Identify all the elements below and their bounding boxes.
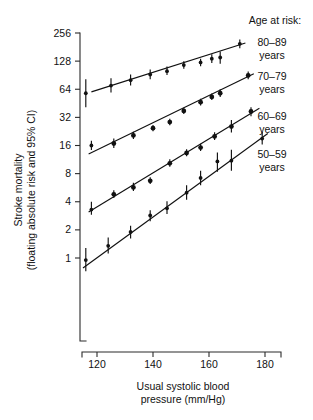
y-axis-tick-label: 64 <box>59 83 71 95</box>
legend-title: Age at risk: <box>249 14 302 26</box>
chart-canvas: 1248163264128256 120140160180 Usual syst… <box>0 0 313 420</box>
data-point <box>229 124 234 129</box>
x-axis-line <box>82 352 281 357</box>
data-point <box>90 208 94 212</box>
legend-item-70-79-unit: years <box>259 83 285 95</box>
legend-item-80-89-unit: years <box>259 49 285 61</box>
y-axis-tick-label: 8 <box>65 167 71 179</box>
y-axis-tick-label: 256 <box>53 27 71 39</box>
y-axis-line <box>80 33 86 341</box>
y-axis-tick-label: 16 <box>59 139 71 151</box>
data-point <box>84 91 88 95</box>
data-point <box>148 178 153 183</box>
data-point <box>230 159 234 163</box>
x-axis-tick-label: 140 <box>144 358 162 370</box>
data-point <box>90 144 94 148</box>
data-point <box>129 78 133 82</box>
data-point <box>199 176 203 180</box>
y-axis: 1248163264128256 <box>53 27 86 341</box>
y-axis-tick-label: 2 <box>65 223 71 235</box>
legend-item-80-89-range: 80–89 <box>257 36 286 48</box>
data-point <box>185 191 189 195</box>
x-axis: 120140160180 <box>82 352 281 370</box>
y-axis-tick-label: 4 <box>65 195 71 207</box>
legend-item-50-59-unit: years <box>259 161 285 173</box>
data-point <box>111 141 116 146</box>
y-axis-tick-label: 128 <box>53 55 71 67</box>
data-point <box>212 134 217 139</box>
series-fit-line <box>83 134 268 269</box>
series-60-69-years <box>89 107 260 214</box>
legend-item-60-69-unit: years <box>259 123 285 135</box>
y-axis-tick-label: 1 <box>65 252 71 264</box>
data-point <box>106 244 110 248</box>
data-point <box>111 192 116 197</box>
x-axis-title-line1: Usual systolic blood <box>137 380 230 392</box>
series-50-59-years <box>83 132 268 272</box>
data-point <box>148 73 152 77</box>
data-point <box>182 63 186 67</box>
data-series-layer <box>83 40 268 272</box>
data-point <box>84 258 88 262</box>
x-axis-tick-label: 180 <box>256 358 274 370</box>
y-axis-title-line2: (floating absolute risk and 95% CI) <box>25 110 37 271</box>
data-point <box>210 57 214 61</box>
data-point <box>151 126 156 131</box>
data-point <box>167 120 172 125</box>
data-point <box>199 61 203 65</box>
data-point <box>131 133 136 138</box>
data-point <box>198 145 203 150</box>
data-point <box>129 230 133 234</box>
data-point <box>167 161 172 166</box>
legend-item-60-69-range: 60–69 <box>257 110 286 122</box>
data-point <box>198 100 203 105</box>
series-70-79-years <box>89 72 254 154</box>
x-axis-tick-label: 120 <box>88 358 106 370</box>
legend-item-70-79-range: 70–79 <box>257 70 286 82</box>
data-point <box>246 73 251 78</box>
series-fit-line <box>91 43 245 92</box>
data-point <box>249 109 254 114</box>
data-point <box>184 151 189 156</box>
stroke-mortality-chart: 1248163264128256 120140160180 Usual syst… <box>0 0 313 420</box>
data-point <box>218 56 222 60</box>
data-point <box>165 206 169 210</box>
data-point <box>216 160 220 164</box>
y-axis-title-line1: Stroke mortality <box>12 153 24 227</box>
data-point <box>109 84 113 88</box>
data-point <box>131 185 136 190</box>
data-point <box>165 69 169 73</box>
data-point <box>260 137 264 141</box>
x-axis-tick-label: 160 <box>200 358 218 370</box>
data-point <box>148 214 152 218</box>
data-point <box>218 91 223 96</box>
data-point <box>209 95 214 100</box>
legend-item-50-59-range: 50–59 <box>257 148 286 160</box>
data-point <box>181 109 186 114</box>
x-axis-title-line2: pressure (mm/Hg) <box>141 393 226 405</box>
series-80-89-years <box>84 40 246 108</box>
y-axis-tick-label: 32 <box>59 111 71 123</box>
data-point <box>238 42 242 46</box>
